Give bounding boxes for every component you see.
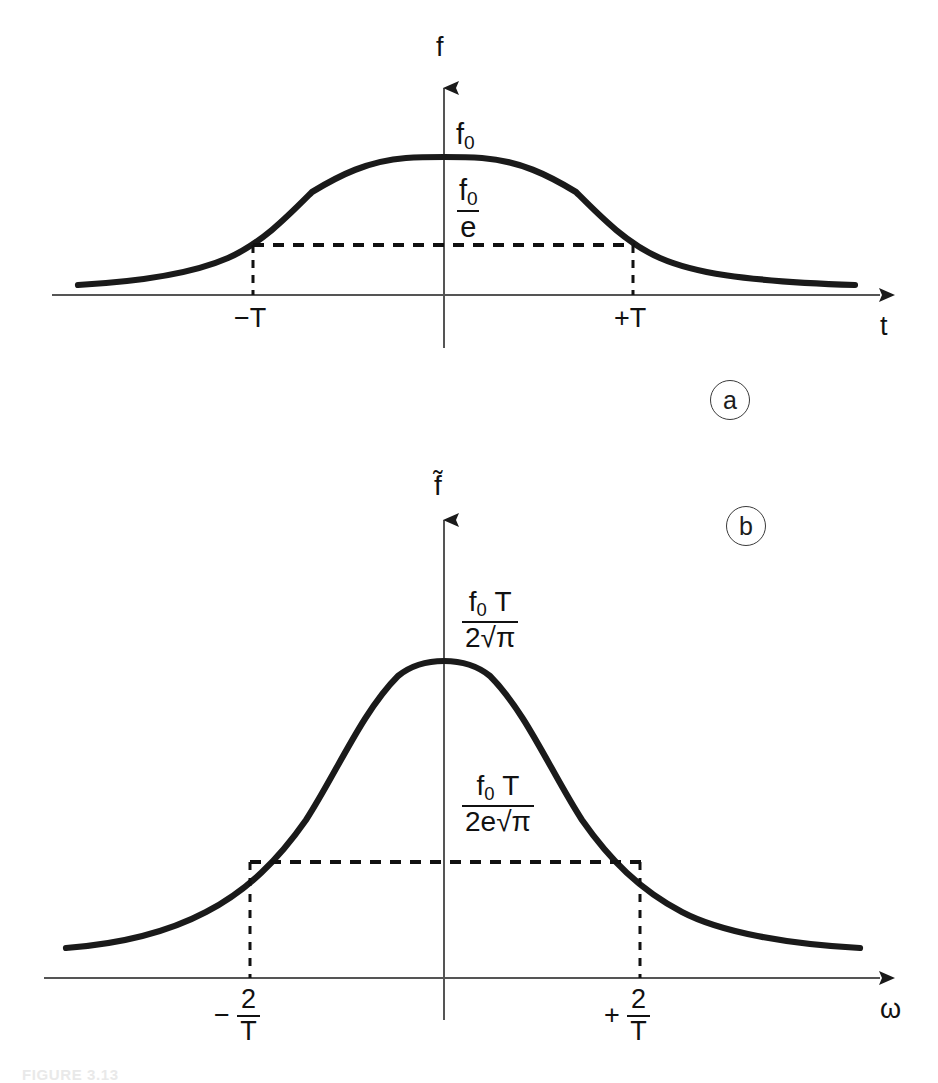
panel-b-tick-right-sign: + bbox=[604, 1000, 620, 1030]
panel-b-peak-num-T: T bbox=[495, 586, 512, 617]
panel-b-tick-right-numerator: 2 bbox=[628, 986, 649, 1015]
panel-b-peak-denominator: 2√π bbox=[462, 621, 518, 653]
panel-a-efold-value-label: f0 e bbox=[456, 176, 481, 242]
panel-a-tick-label-minus-T: −T bbox=[234, 305, 266, 332]
panel-b-tick-left-fraction: 2 T bbox=[237, 986, 260, 1045]
panel-b-efold-num-subscript: 0 bbox=[484, 783, 494, 804]
panel-a-peak-subscript: 0 bbox=[464, 132, 475, 153]
panel-badge-b: b bbox=[726, 506, 766, 546]
panel-b-efold-value-label: f0 T 2e√π bbox=[462, 772, 534, 837]
panel-a-efold-denominator: e bbox=[457, 210, 479, 243]
panel-b-tick-right-denominator: T bbox=[627, 1015, 650, 1046]
panel-a-efold-fraction: f0 e bbox=[456, 176, 481, 242]
panel-b-efold-numerator: f0 T bbox=[473, 772, 522, 805]
panel-b-tick-label-minus-2-over-T: − 2 T bbox=[214, 986, 260, 1045]
panel-b-tick-right-fraction: 2 T bbox=[627, 986, 650, 1045]
panel-a-y-axis-label: f bbox=[436, 34, 444, 61]
panel-a-peak-value-label: f0 bbox=[456, 120, 475, 152]
panel-b-peak-fraction: f0 T 2√π bbox=[462, 588, 518, 653]
panel-a-tick-label-plus-T: +T bbox=[614, 305, 646, 332]
panel-b-x-axis-label: ω bbox=[880, 996, 901, 1023]
panel-a-x-axis-label: t bbox=[880, 313, 888, 340]
panel-a-efold-num-subscript: 0 bbox=[467, 188, 478, 209]
panel-badge-b-letter: b bbox=[739, 512, 753, 541]
panel-badge-a: a bbox=[710, 380, 750, 420]
panel-b-y-axis-label: f̃ bbox=[434, 472, 442, 500]
panel-a-efold-num-symbol: f bbox=[459, 174, 467, 206]
panel-b-peak-value-label: f0 T 2√π bbox=[462, 588, 518, 653]
panel-b-tick-left-numerator: 2 bbox=[238, 986, 259, 1015]
panel-b-tick-left-sign: − bbox=[214, 1000, 230, 1030]
panel-a-peak-symbol: f bbox=[456, 118, 464, 150]
panel-a-efold-numerator: f0 bbox=[456, 176, 481, 210]
panel-b-tick-label-plus-2-over-T: + 2 T bbox=[604, 986, 650, 1045]
panel-badge-a-letter: a bbox=[723, 386, 737, 415]
panel-b-peak-numerator: f0 T bbox=[466, 588, 515, 621]
figure-caption-fragment: FIGURE 3.13 bbox=[22, 1066, 119, 1083]
panel-b-efold-denominator: 2e√π bbox=[462, 805, 534, 837]
panel-b-efold-fraction: f0 T 2e√π bbox=[462, 772, 534, 837]
panel-b-efold-num-T: T bbox=[502, 770, 519, 801]
panel-b-peak-num-subscript: 0 bbox=[476, 599, 486, 620]
panel-b-tick-left-denominator: T bbox=[237, 1015, 260, 1046]
